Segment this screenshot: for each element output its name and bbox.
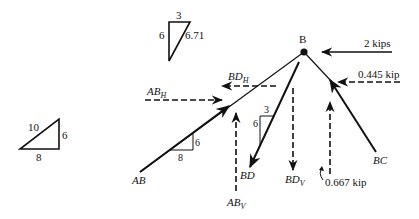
bd-v-main: BD — [285, 173, 300, 185]
node-b-label: B — [299, 33, 306, 45]
bc-horizontal-component: 0.445 kip — [338, 68, 400, 82]
bd-slope-horizontal: 3 — [264, 104, 269, 115]
ab-slope-vertical: 6 — [195, 137, 200, 148]
bc-label: BC — [373, 154, 388, 166]
ab-vertical-component: ABV — [226, 113, 246, 211]
member-ab: 6 8 AB — [131, 52, 304, 186]
ab-label: AB — [131, 174, 146, 186]
load-2-kips-label: 2 kips — [364, 37, 391, 49]
triangle-left-vertical: 6 — [62, 129, 68, 141]
free-body-diagram: 3 6 6.71 10 6 8 B 2 kips 6 8 AB ABH ABV — [0, 0, 419, 219]
bd-label: BD — [240, 169, 255, 181]
triangle-left-horizontal: 8 — [36, 151, 42, 163]
slope-triangle-top: 3 6 6.71 — [159, 9, 204, 61]
bd-v-sub: V — [300, 179, 306, 188]
bc-vertical-label: 0.667 kip — [325, 176, 367, 188]
bd-slope-vertical: 6 — [253, 118, 258, 129]
ab-slope-horizontal: 8 — [178, 152, 183, 163]
triangle-top-vertical: 6 — [159, 29, 165, 41]
svg-text:BDV: BDV — [285, 173, 306, 188]
ab-horizontal-component: ABH — [145, 85, 222, 100]
triangle-top-horizontal: 3 — [176, 9, 182, 21]
svg-text:ABH: ABH — [146, 85, 167, 100]
slope-triangle-left: 10 6 8 — [20, 119, 68, 163]
svg-text:ABV: ABV — [226, 196, 246, 211]
triangle-top-hypotenuse: 6.71 — [185, 29, 204, 41]
member-bd: 3 6 BD — [240, 62, 299, 181]
svg-text:BDH: BDH — [228, 70, 250, 85]
load-2-kips: 2 kips — [322, 37, 392, 52]
ab-h-sub: H — [159, 91, 167, 100]
bc-vertical-component: 0.667 kip — [319, 102, 367, 188]
bd-vertical-component: BDV — [285, 88, 306, 188]
triangle-left-hypotenuse: 10 — [28, 121, 40, 133]
ab-v-sub: V — [240, 202, 246, 211]
ab-v-main: AB — [226, 196, 241, 208]
bd-h-sub: H — [242, 76, 250, 85]
ab-h-main: AB — [146, 85, 161, 97]
bd-h-main: BD — [228, 70, 243, 82]
bc-horizontal-label: 0.445 kip — [358, 68, 400, 80]
